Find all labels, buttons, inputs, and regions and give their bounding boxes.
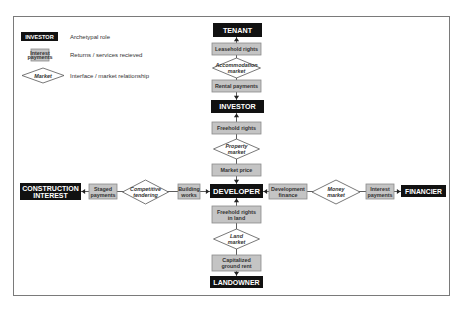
role-label: TENANT [223, 26, 253, 35]
role-tenant: TENANT [213, 23, 262, 37]
legend-item-market: Market [22, 68, 64, 83]
role-financier: FINANCIER [401, 185, 446, 197]
return-building-works: Buildingworks [178, 184, 200, 199]
role-landowner: LANDOWNER [210, 276, 263, 288]
market-label: market [228, 239, 246, 245]
arrow-down-to-developer-icon [234, 180, 239, 184]
role-label: INTEREST [33, 192, 68, 199]
market-label: tendering [133, 192, 158, 198]
role-label: FINANCIER [405, 188, 442, 195]
development-process-diagram: Leasehold rightsRental paymentsFreehold … [0, 0, 463, 309]
legend: INVESTORArchetypal roleInterestpaymentsR… [21, 32, 150, 83]
market-property: Propertymarket [214, 139, 260, 159]
arrow-right-to-developer-icon [206, 189, 210, 194]
role-label: LANDOWNER [213, 279, 259, 286]
market-label: market [228, 68, 246, 74]
market-competitive-tendering: Competitivetendering [123, 180, 169, 204]
return-label: payments [367, 192, 392, 198]
arrow-left-to-developer-icon [264, 189, 268, 194]
return-rental-payments: Rental payments [212, 80, 261, 92]
return-label: works [180, 192, 197, 198]
arrow-up-to-developer-icon [234, 199, 239, 203]
return-label: Rental payments [215, 83, 258, 89]
return-capitalized-ground-rent: Capitalizedground rent [212, 255, 261, 271]
return-label: Leasehold rights [215, 46, 258, 52]
market-accommodation: Accommodationmarket [213, 58, 261, 78]
arrow-right-to-financier-icon [397, 189, 401, 194]
role-construction: CONSTRUCTIONINTEREST [20, 183, 81, 200]
return-freehold-rights: Freehold rights [212, 122, 261, 134]
return-market-price: Market price [212, 164, 261, 176]
arrow-down-to-investor-icon [234, 96, 239, 100]
return-label: in land [228, 215, 245, 221]
return-freehold-rights-land: Freehold rightsin land [212, 206, 261, 223]
market-money: Moneymarket [312, 180, 360, 204]
legend-label: Returns / services recieved [70, 52, 142, 58]
market-land: Landmarket [214, 229, 260, 249]
arrow-down-to-landowner-icon [234, 272, 239, 276]
legend-item-role: INVESTOR [21, 32, 58, 41]
legend-label: Archetypal role [70, 34, 111, 40]
legend-role-sample-text: INVESTOR [25, 34, 54, 40]
role-label: DEVELOPER [213, 187, 260, 196]
return-label: Freehold rights [217, 125, 256, 131]
return-label: ground rent [221, 263, 251, 269]
return-development-finance: Developmentfinance [269, 184, 307, 199]
role-label: INVESTOR [219, 102, 256, 111]
return-staged-payments: Stagedpayments [89, 184, 117, 199]
return-interest-payments: Interestpayments [366, 184, 394, 199]
legend-label: Interface / market relationship [70, 73, 150, 79]
market-label: market [327, 192, 345, 198]
role-label: CONSTRUCTION [22, 185, 78, 192]
arrow-up-to-investor-icon [234, 114, 239, 118]
legend-market-sample-text: Market [34, 73, 52, 79]
return-label: payments [90, 192, 115, 198]
arrow-up-to-tenant-icon [234, 38, 239, 42]
arrow-left-to-construction-icon [82, 189, 86, 194]
return-label: Market price [221, 167, 253, 173]
legend-returns-sample-text: payments [27, 54, 52, 60]
legend-item-returns: Interestpayments [27, 49, 52, 61]
role-developer: DEVELOPER [210, 184, 263, 198]
return-label: finance [279, 192, 298, 198]
market-label: market [228, 149, 246, 155]
role-investor: INVESTOR [211, 100, 264, 113]
return-leasehold-rights: Leasehold rights [212, 43, 261, 55]
